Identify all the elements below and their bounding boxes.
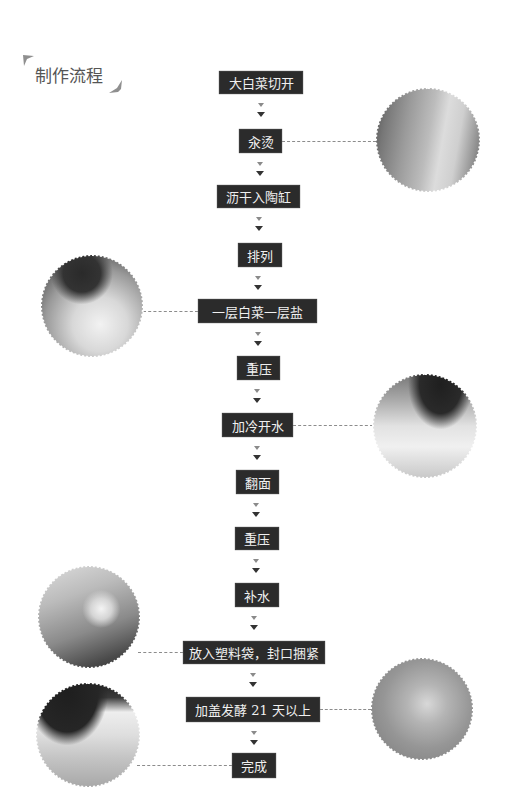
photo-ferment-covered <box>371 658 473 760</box>
step-press-1: 重压 <box>237 356 280 380</box>
down-arrow-icon <box>250 616 258 632</box>
down-arrow-icon <box>250 731 258 747</box>
step-done: 完成 <box>232 753 276 778</box>
step-press-2: 重压 <box>235 527 279 550</box>
corner-ornament-bottom-right-icon <box>109 80 122 93</box>
down-arrow-icon <box>254 332 262 348</box>
down-arrow-icon <box>255 217 263 233</box>
connector-add-cold-water <box>293 425 373 426</box>
down-arrow-icon <box>257 103 265 119</box>
photo-layer-cabbage-salt <box>41 255 143 357</box>
step-blanch: 汆烫 <box>239 129 282 153</box>
down-arrow-icon <box>253 446 261 462</box>
step-flip: 翻面 <box>236 470 279 494</box>
connector-done <box>137 765 232 766</box>
down-arrow-icon <box>253 389 261 405</box>
down-arrow-icon <box>252 559 260 575</box>
step-drain-into-jar: 沥干入陶缸 <box>217 185 300 208</box>
step-add-cold-water: 加冷开水 <box>222 413 293 437</box>
photo-seal-plastic-bag <box>38 566 140 668</box>
corner-ornament-top-left-icon <box>23 55 34 66</box>
down-arrow-icon <box>254 276 262 292</box>
section-title: 制作流程 <box>35 62 103 87</box>
step-add-water: 补水 <box>235 583 279 607</box>
step-cut-cabbage: 大白菜切开 <box>219 71 303 94</box>
down-arrow-icon <box>252 503 260 519</box>
down-arrow-icon <box>256 162 264 178</box>
step-arrange: 排列 <box>238 243 282 267</box>
connector-cover-ferment <box>320 709 371 710</box>
connector-blanching <box>282 141 376 142</box>
step-seal-plastic-bag: 放入塑料袋，封口捆紧 <box>183 641 325 664</box>
connector-layer-cabbage-salt <box>143 311 198 312</box>
connector-seal-plastic-bag <box>138 652 183 653</box>
photo-add-cold-water <box>373 374 477 478</box>
down-arrow-icon <box>249 673 257 689</box>
photo-finished <box>36 683 140 787</box>
step-cover-ferment: 加盖发酵 21 天以上 <box>186 697 320 722</box>
photo-blanching <box>376 88 480 192</box>
step-layer-cabbage-salt: 一层白菜一层盐 <box>198 299 317 323</box>
